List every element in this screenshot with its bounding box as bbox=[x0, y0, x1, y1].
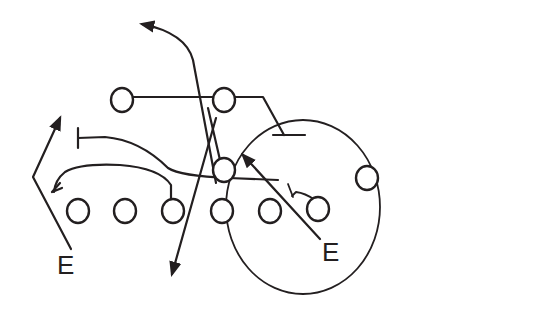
player-line-3 bbox=[162, 199, 184, 223]
player-line-2 bbox=[114, 199, 136, 223]
block-marker-small bbox=[288, 184, 293, 197]
player-line-1 bbox=[67, 199, 89, 223]
player-back-center bbox=[213, 88, 235, 112]
route-down-arrow bbox=[172, 118, 216, 274]
player-linebacker bbox=[213, 158, 235, 182]
route-left-block bbox=[78, 137, 278, 180]
player-line-6 bbox=[307, 197, 329, 221]
zone-ellipse bbox=[226, 120, 380, 294]
player-back-left bbox=[111, 88, 133, 112]
route-loop-left bbox=[54, 165, 171, 200]
arrow-loop-left bbox=[52, 183, 62, 192]
label-end-left: E bbox=[57, 250, 74, 280]
player-wing-right bbox=[356, 166, 378, 190]
route-top-block bbox=[131, 97, 284, 135]
route-end-left bbox=[33, 118, 71, 249]
play-diagram: E E bbox=[0, 0, 543, 311]
player-line-5 bbox=[259, 199, 281, 223]
player-line-4 bbox=[211, 199, 233, 223]
label-end-right: E bbox=[322, 237, 339, 267]
players bbox=[67, 88, 378, 223]
